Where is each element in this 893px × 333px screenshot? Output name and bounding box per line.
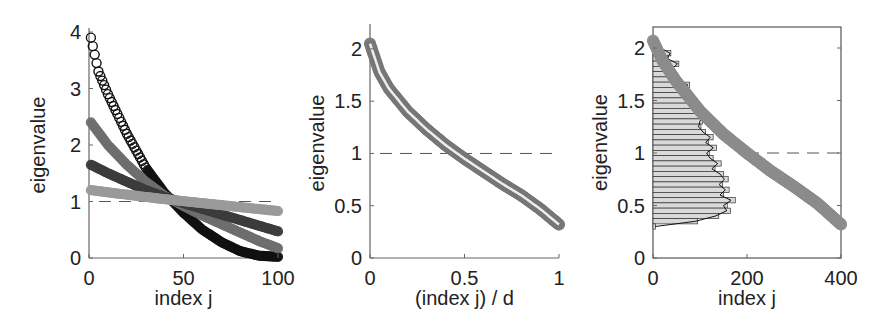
panel-middle: 00.5100.511.52(index j) / deigenvalue <box>306 24 565 309</box>
x-tick-label: 0 <box>83 267 94 289</box>
y-tick-label: 1 <box>634 142 645 164</box>
y-tick-label: 1.5 <box>334 90 362 112</box>
x-axis-label: (index j) / d <box>415 287 514 309</box>
y-tick-label: 2 <box>70 134 81 156</box>
y-tick-label: 0.5 <box>334 195 362 217</box>
data-point <box>88 42 97 51</box>
data-point <box>274 227 283 236</box>
x-tick-label: 400 <box>824 267 857 289</box>
series-series-mid-gray <box>86 118 282 253</box>
x-tick-label: 0 <box>647 267 658 289</box>
x-tick-label: 200 <box>730 267 763 289</box>
histogram-bar <box>653 124 701 129</box>
figure-canvas: 05010001234index jeigenvalue 00.5100.511… <box>0 0 893 333</box>
histogram-bar <box>653 156 713 161</box>
histogram-bar <box>653 161 721 166</box>
data-point <box>274 207 283 216</box>
x-axis-label: index j <box>155 287 213 309</box>
y-tick-label: 3 <box>70 78 81 100</box>
histogram-bar <box>653 119 702 124</box>
histogram-bar <box>653 208 731 213</box>
y-tick-label: 1.5 <box>617 90 645 112</box>
data-point <box>274 244 283 253</box>
panel-left: 05010001234index jeigenvalue <box>27 21 295 309</box>
x-tick-label: 0.5 <box>451 267 479 289</box>
histogram-bar <box>653 177 728 182</box>
y-tick-label: 0.5 <box>617 195 645 217</box>
x-tick-label: 50 <box>172 267 194 289</box>
histogram-bar <box>653 166 715 171</box>
histogram-bar <box>653 192 724 197</box>
y-tick-label: 0 <box>351 247 362 269</box>
y-tick-label: 2 <box>634 37 645 59</box>
y-tick-label: 1 <box>70 191 81 213</box>
histogram-bar <box>653 135 713 140</box>
y-tick-label: 2 <box>351 38 362 60</box>
histogram-bar <box>653 150 709 155</box>
y-axis-label: eigenvalue <box>306 95 328 192</box>
histogram-bar <box>653 224 655 229</box>
x-axis-label: index j <box>718 287 776 309</box>
data-point <box>92 59 101 68</box>
histogram-bar <box>653 198 735 203</box>
histogram-bar <box>653 182 723 187</box>
y-tick-label: 0 <box>634 247 645 269</box>
panel-right: 020040000.511.52index jeigenvalue <box>589 27 858 309</box>
histogram-bar <box>653 129 706 134</box>
y-axis-label: eigenvalue <box>589 94 611 191</box>
series-overlaid-spectra <box>365 38 565 230</box>
histogram-bar <box>653 145 716 150</box>
histogram-bar <box>653 187 729 192</box>
y-tick-label: 0 <box>70 247 81 269</box>
histogram-bar <box>653 140 708 145</box>
x-tick-label: 0 <box>364 267 375 289</box>
y-tick-label: 1 <box>351 142 362 164</box>
data-point <box>86 33 95 42</box>
histogram-bar <box>653 171 724 176</box>
x-tick-label: 100 <box>261 267 294 289</box>
x-tick-label: 1 <box>553 267 564 289</box>
data-point <box>836 219 847 230</box>
y-tick-label: 4 <box>70 21 81 43</box>
histogram-bar <box>653 203 727 208</box>
y-axis-label: eigenvalue <box>27 97 49 194</box>
data-point <box>90 50 99 59</box>
histogram-bar <box>653 219 698 224</box>
